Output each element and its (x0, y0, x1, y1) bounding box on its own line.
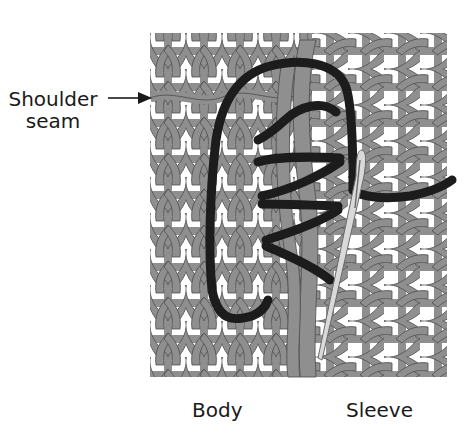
sleeve-label: Sleeve (346, 399, 413, 421)
shoulder-seam-arrow (108, 92, 152, 104)
body-label: Body (192, 399, 243, 421)
shoulder-seam-label: Shoulder seam (4, 88, 102, 132)
shoulder-label-line2: seam (4, 110, 102, 132)
seaming-diagram (0, 0, 473, 435)
shoulder-label-line1: Shoulder (4, 88, 102, 110)
